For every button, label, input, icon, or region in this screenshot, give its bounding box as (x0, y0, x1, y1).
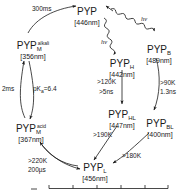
state-pyp-m-alkali[interactable]: PYPMalkali [356nm] (2, 36, 64, 60)
label-200us: 200µs (28, 166, 46, 173)
state-pyp-m-acid-wavelength: [367nm] (2, 136, 60, 143)
state-pyp-bl-symbol: PYP (146, 119, 166, 129)
label-220k: >220K (28, 157, 47, 164)
state-pyp-m-alkali-subscript: M (37, 46, 42, 52)
state-pyp-l-subscript: L (103, 168, 106, 174)
state-pyp-m-acid-symbol: PYP (16, 124, 36, 134)
state-pyp-l-symbol: PYP (83, 163, 103, 173)
state-pyp-bl-wavelength: [400nm] (133, 131, 187, 138)
label-13ns: 1.3ns (160, 88, 176, 95)
bottom-panel-axis (31, 185, 168, 189)
label-pka: pKa=6.4 (33, 85, 57, 94)
state-pyp-l[interactable]: PYPL [456nm] (71, 158, 119, 182)
state-pyp-m-alkali-wavelength: [356nm] (2, 53, 64, 60)
label-190k: >190K (93, 131, 112, 138)
state-pyp-bl-subscript: BL (166, 124, 173, 130)
state-pyp-h[interactable]: PYPH [442nm] (97, 54, 147, 78)
state-pyp-l-wavelength: [456nm] (71, 175, 119, 182)
pyp-photocycle-figure: PYP [446nm] PYPB [489nm] PYPH [442nm] PY… (0, 0, 187, 193)
state-pyp-m-alkali-symbol: PYP (17, 41, 37, 51)
label-pka-value: =6.4 (44, 85, 57, 92)
arrow-pyp-to-b-photon (110, 8, 155, 33)
state-pyp-bl[interactable]: PYPBL [400nm] (133, 114, 187, 138)
label-pka-prefix: pK (33, 85, 41, 92)
state-pyp-wavelength: [446nm] (62, 19, 112, 26)
state-pyp-symbol: PYP (77, 7, 97, 17)
label-2ms: 2ms (2, 85, 14, 92)
state-pyp[interactable]: PYP [446nm] (62, 2, 112, 26)
state-pyp-m-alkali-superscript: alkali (38, 41, 49, 46)
state-pyp-hl-symbol: PYP (108, 110, 128, 120)
state-pyp-m-acid-superscript: acid (37, 124, 46, 129)
label-5ns: >5ns (99, 88, 113, 95)
label-180k: >180K (122, 152, 141, 159)
state-pyp-h-wavelength: [442nm] (97, 71, 147, 78)
state-pyp-b-subscript: B (167, 50, 171, 56)
state-pyp-m-acid[interactable]: PYPMacid [367nm] (2, 119, 60, 143)
state-pyp-b-symbol: PYP (147, 45, 167, 55)
label-120k: >120K (97, 78, 116, 85)
state-pyp-m-acid-subscript: M (36, 129, 41, 135)
label-300ms: 300ms (32, 5, 52, 12)
label-90k: >90K (160, 79, 175, 86)
label-hv-left: hν (101, 38, 107, 45)
arrow-m-acid-alkali-equilibrium (20, 61, 33, 119)
state-pyp-h-subscript: H (130, 64, 134, 70)
arrow-b-to-bl (154, 58, 159, 110)
label-hv-right: hν (141, 15, 147, 22)
state-pyp-h-symbol: PYP (110, 59, 130, 69)
